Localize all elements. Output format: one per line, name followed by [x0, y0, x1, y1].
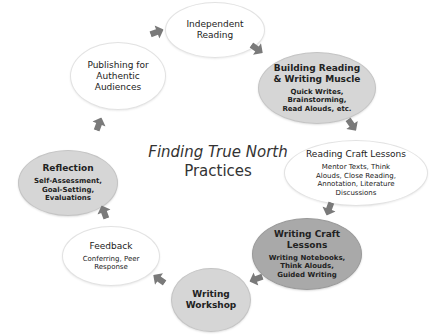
node-title: Reading Craft Lessons: [306, 149, 406, 160]
node-title: Writing Craft Lessons: [272, 229, 342, 251]
node-building-reading-writing-muscle: Building Reading & Writing Muscle Quick …: [258, 52, 376, 124]
arrow-feedback-to-reflection: [95, 203, 113, 221]
node-title: Building Reading & Writing Muscle: [269, 63, 365, 85]
node-reading-craft-lessons: Reading Craft Lessons Mentor Texts, Thin…: [284, 140, 428, 206]
node-feedback: Feedback Conferring, Peer Response: [62, 226, 160, 286]
diagram-title-line1: Finding True North: [138, 143, 298, 162]
node-subtitle: Writing Notebooks, Think Alouds, Guided …: [267, 254, 347, 280]
node-publishing-for-authentic-audiences: Publishing for Authentic Audiences: [70, 42, 166, 110]
node-writing-workshop: Writing Workshop: [171, 268, 251, 332]
node-subtitle: Mentor Texts, Think Alouds, Close Readin…: [311, 163, 401, 197]
diagram-title-line2: Practices: [138, 162, 298, 181]
arrow-publishing-to-independent-reading: [148, 23, 166, 41]
block-arrow-icon: [148, 23, 166, 41]
node-subtitle: Quick Writes, Brainstorming, Read Alouds…: [277, 88, 357, 114]
block-arrow-icon: [90, 115, 108, 133]
node-title: Reflection: [42, 163, 93, 174]
node-subtitle: Conferring, Peer Response: [76, 255, 146, 272]
arrow-reflection-to-publishing: [90, 115, 108, 133]
node-title: Feedback: [90, 241, 133, 252]
node-title: Publishing for Authentic Audiences: [80, 60, 156, 93]
node-title: Independent Reading: [180, 19, 250, 41]
node-writing-craft-lessons: Writing Craft Lessons Writing Notebooks,…: [252, 218, 362, 290]
diagram-title: Finding True North Practices: [138, 143, 298, 181]
node-title: Writing Workshop: [181, 289, 241, 311]
block-arrow-icon: [95, 203, 113, 221]
node-subtitle: Self-Assessment, Goal-Setting, Evaluatio…: [33, 177, 103, 203]
